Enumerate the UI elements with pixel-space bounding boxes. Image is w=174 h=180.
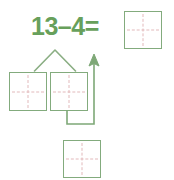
result-arrow: [62, 52, 104, 134]
result-square[interactable]: [63, 140, 101, 178]
crosshair-horizontal-dash: [66, 159, 98, 160]
equation-subtrahend: 4: [71, 12, 84, 40]
equation-minuend: 13: [31, 12, 58, 40]
crosshair-vertical-dash: [28, 75, 29, 108]
crosshair-vertical-dash: [82, 143, 83, 175]
answer-square[interactable]: [124, 11, 162, 49]
crosshair-horizontal-dash: [127, 30, 159, 31]
equation-text: 13–4=: [31, 13, 99, 39]
equation-minus-sign: –: [58, 12, 71, 40]
crosshair-vertical-dash: [143, 14, 144, 46]
equation-equals-sign: =: [85, 12, 99, 40]
part-square-left[interactable]: [9, 72, 47, 111]
crosshair-horizontal-dash: [12, 91, 44, 92]
worksheet-canvas: 13–4=: [0, 0, 174, 180]
